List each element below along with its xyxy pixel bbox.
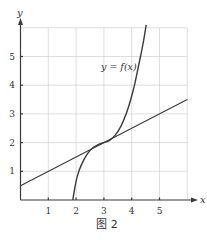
- y-tick-label: 1: [9, 166, 15, 176]
- x-axis-label: x: [200, 194, 206, 205]
- y-tick-label: 4: [9, 80, 15, 90]
- function-curve: [73, 25, 146, 200]
- figure-caption: 图 2: [96, 218, 118, 231]
- x-axis-arrow-icon: [191, 198, 198, 203]
- y-axis-arrow-icon: [18, 18, 23, 25]
- x-tick-label: 1: [45, 206, 51, 216]
- y-tick-label: 2: [9, 138, 15, 148]
- x-tick-label: 3: [101, 206, 107, 216]
- x-tick-label: 5: [157, 206, 163, 216]
- axes: [18, 18, 198, 203]
- x-tick-label: 2: [73, 206, 79, 216]
- y-tick-label: 5: [9, 52, 15, 62]
- curve-label: y = f(x): [100, 61, 137, 72]
- chart-figure: 1234512345 y = f(x) x y 图 2: [0, 0, 207, 240]
- grid: [21, 28, 188, 200]
- y-axis-label: y: [16, 7, 23, 18]
- tick-labels: 1234512345: [9, 52, 163, 217]
- x-tick-label: 4: [129, 206, 135, 216]
- y-tick-label: 3: [9, 109, 15, 119]
